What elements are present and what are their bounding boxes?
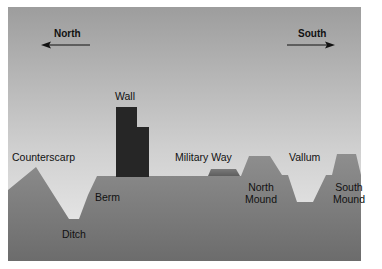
south-mound-label: South Mound [332,181,366,205]
military-way-shape [208,169,240,176]
north-mound-label-line1: North [244,181,278,193]
north-label: North [54,28,81,40]
south-mound-label-line2: Mound [332,193,366,205]
south-label: South [298,28,326,40]
vallum-label: Vallum [289,151,320,163]
hadrians-wall-cross-section [0,0,382,269]
north-mound-label-line2: Mound [244,193,278,205]
south-mound-label-line1: South [332,181,366,193]
counterscarp-label: Counterscarp [12,151,75,163]
berm-label: Berm [95,191,120,203]
north-mound-label: North Mound [244,181,278,205]
military-way-label: Military Way [175,151,232,163]
wall-label: Wall [115,90,135,102]
ditch-label: Ditch [62,228,86,240]
